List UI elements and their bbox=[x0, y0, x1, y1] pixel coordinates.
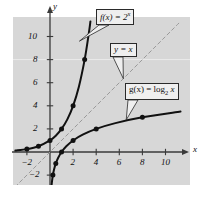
logarithm-function-label: g(x) = log2 x bbox=[125, 83, 179, 100]
y-tick-label-2: 2 bbox=[33, 124, 38, 133]
x-tick-label-2: 2 bbox=[71, 158, 76, 167]
y-axis-label: y bbox=[53, 2, 57, 11]
callout-leader bbox=[79, 25, 109, 41]
x-tick-label-minus-2: −2 bbox=[21, 158, 32, 167]
callout-leader bbox=[126, 100, 138, 120]
data-point-marker bbox=[24, 147, 29, 152]
data-point-marker bbox=[36, 144, 41, 149]
callout-leader bbox=[113, 57, 123, 79]
y-tick-label-10: 10 bbox=[28, 32, 37, 41]
exponential-function-label: f(x) = 2x bbox=[96, 9, 134, 25]
x-tick-label-6: 6 bbox=[117, 158, 122, 167]
exponential-exponent-text: x bbox=[128, 10, 131, 17]
data-point-marker bbox=[59, 150, 64, 155]
curve-series-2 bbox=[51, 112, 180, 187]
data-point-marker bbox=[59, 126, 64, 131]
figure-container: y x 10 8 6 4 2 −2 −2 2 4 6 8 10 f(x) = 2… bbox=[0, 0, 209, 198]
data-point-marker bbox=[140, 115, 145, 120]
data-point-marker bbox=[82, 57, 87, 62]
x-tick-label-8: 8 bbox=[140, 158, 145, 167]
data-point-marker bbox=[53, 161, 58, 166]
y-tick-label-minus-2: −2 bbox=[29, 170, 40, 179]
y-tick-label-8: 8 bbox=[33, 55, 38, 64]
data-point-marker bbox=[50, 173, 55, 178]
x-axis-label: x bbox=[193, 145, 197, 154]
data-point-marker bbox=[94, 126, 99, 131]
x-tick-label-10: 10 bbox=[161, 158, 170, 167]
identity-line-text: y = x bbox=[114, 44, 133, 54]
exponential-function-text: f(x) = 2 bbox=[100, 12, 128, 22]
data-point-marker bbox=[48, 138, 53, 143]
data-point-marker bbox=[71, 138, 76, 143]
y-tick-label-4: 4 bbox=[33, 101, 38, 110]
x-tick-label-4: 4 bbox=[94, 158, 99, 167]
logarithm-argument-text: x bbox=[171, 84, 175, 94]
logarithm-function-text: g(x) = log bbox=[129, 84, 165, 94]
identity-line-label: y = x bbox=[110, 43, 137, 57]
data-point-marker bbox=[71, 103, 76, 108]
y-tick-label-6: 6 bbox=[33, 78, 38, 87]
